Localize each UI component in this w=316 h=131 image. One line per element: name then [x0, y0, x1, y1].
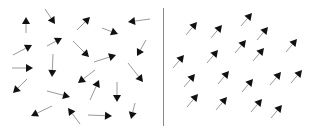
arrow-shaft [253, 53, 259, 61]
arrow-icon [251, 99, 262, 112]
arrow-head [210, 50, 218, 58]
arrow-icon [211, 25, 222, 38]
arrow-head [273, 72, 281, 80]
arrow-head [48, 16, 55, 24]
arrow-shaft [18, 79, 27, 88]
arrow-head [219, 97, 227, 105]
diagram-canvas [0, 0, 316, 131]
arrow-icon [207, 50, 218, 63]
arrow-shaft [133, 103, 135, 112]
arrow-head [68, 108, 75, 116]
arrow-shaft [135, 19, 150, 21]
arrow-head [189, 22, 197, 30]
arrow-head [274, 105, 282, 113]
arrow-head [176, 55, 184, 63]
arrow-shaft [218, 76, 224, 84]
arrow-icon [88, 112, 112, 120]
arrow-icon [113, 82, 121, 102]
arrow-head [221, 71, 229, 79]
arrow-shaft [13, 48, 26, 55]
arrow-shaft [90, 86, 96, 100]
arrow-icon [137, 40, 146, 56]
arrow-icon [48, 54, 56, 77]
arrow-head [136, 74, 144, 82]
arrow-shaft [45, 9, 51, 18]
arrow-shaft [88, 115, 105, 116]
arrow-icon [253, 48, 264, 61]
arrow-shaft [291, 75, 297, 83]
arrow-head [260, 27, 268, 35]
aligned-arrows-panel [173, 13, 302, 118]
arrow-head [128, 17, 136, 25]
arrow-shaft [207, 55, 213, 63]
arrow-icon [128, 17, 150, 25]
arrow-head [78, 76, 86, 83]
dipole-diagram [0, 0, 316, 131]
arrow-icon [12, 64, 33, 72]
arrow-head [238, 40, 246, 48]
arrow-shaft [270, 77, 276, 85]
arrow-shaft [251, 104, 257, 112]
arrow-head [105, 112, 112, 120]
arrow-icon [216, 97, 227, 110]
arrow-icon [270, 72, 281, 85]
arrow-shaft [72, 114, 80, 124]
arrow-icon [22, 17, 30, 33]
arrow-shaft [77, 22, 85, 30]
arrow-head [62, 91, 70, 99]
arrow-head [129, 111, 137, 119]
arrow-shaft [216, 102, 222, 110]
arrow-icon [45, 9, 55, 24]
arrow-icon [187, 94, 198, 107]
arrow-shaft [186, 27, 192, 35]
arrow-icon [235, 40, 246, 53]
arrow-icon [68, 108, 80, 124]
arrow-icon [102, 28, 118, 36]
arrow-icon [173, 55, 184, 68]
random-arrows-panel [12, 9, 150, 124]
arrow-shaft [94, 57, 109, 62]
arrow-head [244, 13, 252, 21]
arrow-head [190, 94, 198, 102]
arrow-shaft [235, 45, 241, 53]
arrow-icon [13, 79, 27, 93]
arrow-shaft [102, 28, 111, 32]
arrow-head [187, 74, 195, 82]
arrow-shaft [286, 44, 292, 52]
arrow-icon [242, 79, 253, 92]
arrow-shaft [73, 41, 84, 52]
arrow-icon [184, 74, 195, 87]
arrow-head [113, 95, 121, 102]
arrow-icon [13, 45, 32, 55]
arrow-shaft [241, 18, 247, 26]
arrow-head [256, 48, 264, 56]
arrow-shaft [257, 32, 263, 40]
arrow-shaft [173, 60, 179, 68]
arrow-icon [291, 70, 302, 83]
arrow-head [214, 25, 222, 33]
arrow-icon [257, 27, 268, 40]
arrow-icon [271, 105, 282, 118]
arrow-icon [47, 91, 70, 99]
arrow-icon [90, 80, 100, 100]
arrow-icon [73, 41, 89, 57]
arrow-icon [78, 70, 95, 83]
arrow-head [294, 70, 302, 78]
arrow-head [48, 70, 56, 77]
arrow-head [254, 99, 262, 107]
arrow-shaft [52, 54, 53, 70]
arrow-shaft [271, 110, 277, 118]
arrow-head [26, 64, 33, 72]
arrow-icon [218, 71, 229, 84]
arrow-shaft [187, 99, 193, 107]
arrow-shaft [37, 106, 52, 113]
arrow-icon [128, 63, 143, 82]
arrow-icon [77, 17, 90, 30]
arrow-shaft [184, 79, 190, 87]
arrow-icon [286, 39, 297, 52]
arrow-shaft [140, 40, 146, 50]
arrow-shaft [128, 63, 139, 77]
arrow-shaft [47, 41, 56, 46]
arrow-icon [129, 103, 137, 119]
arrow-icon [241, 13, 252, 26]
